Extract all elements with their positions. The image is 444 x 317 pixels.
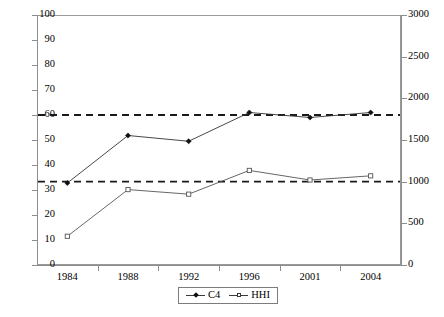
left-tick (32, 240, 37, 241)
left-tick (32, 115, 37, 116)
legend-item-c4: C4 (186, 289, 220, 301)
left-axis-line (37, 15, 38, 266)
left-tick (32, 65, 37, 66)
legend-swatch-hhi (229, 295, 248, 296)
left-tick-label: 10 (45, 234, 56, 244)
x-tick-label: 1988 (103, 272, 153, 282)
right-tick (402, 57, 407, 58)
x-tick-label: 2001 (285, 272, 335, 282)
right-tick-label: 500 (408, 217, 424, 227)
x-tick (219, 266, 220, 271)
left-tick (32, 90, 37, 91)
legend: C4 HHI (178, 287, 278, 304)
diamond-marker-icon (193, 292, 199, 298)
left-tick-label: 70 (45, 84, 56, 94)
right-tick (402, 98, 407, 99)
left-tick-label: 40 (45, 159, 56, 169)
left-tick-label: 0 (50, 259, 55, 269)
legend-swatch-c4 (186, 295, 205, 296)
legend-item-hhi: HHI (229, 289, 270, 301)
right-tick (402, 182, 407, 183)
left-tick-label: 30 (45, 184, 56, 194)
right-tick (402, 140, 407, 141)
right-tick (402, 265, 407, 266)
left-tick-label: 100 (39, 9, 55, 19)
plot-area (37, 15, 401, 265)
left-tick-label: 20 (45, 209, 56, 219)
right-tick-label: 3000 (408, 9, 429, 19)
x-tick (280, 266, 281, 271)
left-tick-label: 80 (45, 59, 56, 69)
left-tick-label: 50 (45, 134, 56, 144)
left-tick (32, 165, 37, 166)
left-tick-label: 90 (45, 34, 56, 44)
right-tick-label: 2000 (408, 92, 429, 102)
left-tick (32, 190, 37, 191)
right-tick-label: 2500 (408, 51, 429, 61)
right-tick-label: 1500 (408, 134, 429, 144)
right-tick-label: 1000 (408, 176, 429, 186)
left-tick (32, 140, 37, 141)
right-tick (402, 15, 407, 16)
square-marker-icon (237, 293, 241, 297)
x-tick-label: 2004 (346, 272, 396, 282)
left-tick-label: 60 (45, 109, 56, 119)
right-tick-label: 0 (408, 259, 413, 269)
right-tick (402, 223, 407, 224)
left-tick (32, 15, 37, 16)
x-tick-label: 1984 (42, 272, 92, 282)
left-tick (32, 215, 37, 216)
x-tick (98, 266, 99, 271)
legend-label-c4: C4 (208, 289, 220, 301)
left-tick (32, 40, 37, 41)
x-tick (158, 266, 159, 271)
legend-label-hhi: HHI (251, 289, 270, 301)
x-tick-label: 1996 (224, 272, 274, 282)
left-tick (32, 265, 37, 266)
x-tick-label: 1992 (164, 272, 214, 282)
chart-container: 0102030405060708090100 05001000150020002… (0, 0, 444, 317)
x-tick (340, 266, 341, 271)
